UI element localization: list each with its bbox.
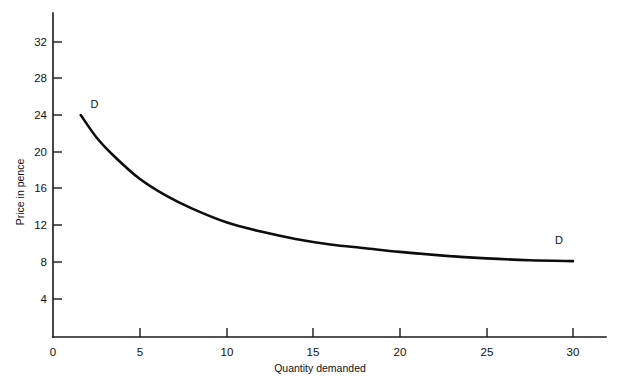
y-tick-label: 12 (34, 219, 47, 231)
x-axis-title: Quantity demanded (274, 362, 366, 374)
x-tick-label: 0 (50, 346, 56, 358)
x-tick-label: 15 (307, 346, 320, 358)
y-axis-title: Price in pence (14, 159, 26, 226)
x-tick-label: 30 (567, 346, 580, 358)
y-tick-label: 24 (34, 109, 47, 121)
curve-label-left: D (91, 98, 99, 110)
y-tick-label: 8 (41, 256, 47, 268)
demand-curve-chart: 4 8 12 16 20 24 28 32 0 5 10 15 20 25 (0, 0, 619, 380)
y-tick-label: 32 (34, 36, 47, 48)
chart-background (0, 0, 619, 380)
y-tick-label: 20 (34, 146, 47, 158)
curve-label-right: D (555, 234, 563, 246)
x-tick-label: 20 (394, 346, 407, 358)
y-tick-label: 28 (34, 72, 47, 84)
y-tick-label: 4 (41, 293, 48, 305)
x-tick-group: 0 (50, 346, 56, 358)
y-tick-label: 16 (34, 182, 47, 194)
x-tick-label: 25 (481, 346, 494, 358)
x-tick-label: 10 (221, 346, 234, 358)
x-tick-label: 5 (137, 346, 143, 358)
